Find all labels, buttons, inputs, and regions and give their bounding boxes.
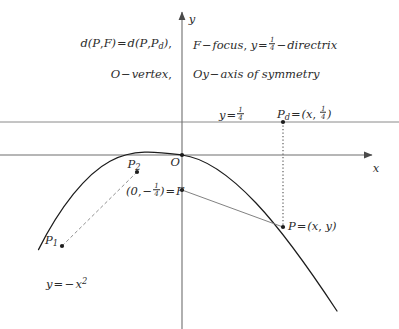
note-line1-left-text: d(P,F)=d(P,Pd),	[80, 36, 172, 50]
point-label-origin-text: O	[171, 155, 180, 169]
y-axis-label-text: y	[189, 12, 196, 26]
note-line1-right-text: F−focus, y=14−directrix	[193, 38, 337, 52]
directrix-label-text: y=14	[219, 108, 244, 122]
x-axis-label-text: x	[373, 161, 380, 175]
y-axis-label: y	[189, 14, 196, 26]
note-line2-left: O−vertex,	[111, 69, 172, 81]
note-line2-right-text: Oy−axis of symmetry	[193, 67, 319, 81]
focus-to-p-line	[182, 190, 283, 227]
point-marker-p1	[60, 244, 64, 248]
point-label-pd-text: Pd=(x, 14)	[277, 107, 331, 121]
note-line1-right: F−focus, y=14−directrix	[193, 36, 337, 52]
note-line2-left-text: O−vertex,	[111, 67, 172, 81]
point-marker-p	[281, 225, 285, 229]
x-axis-label: x	[373, 163, 380, 175]
note-line1-left: d(P,F)=d(P,Pd),	[80, 38, 172, 51]
point-label-p2: P2	[127, 159, 140, 172]
point-label-p2-text: P2	[127, 157, 140, 171]
curve-equation-label: y=−x2	[46, 278, 87, 291]
parabola-figure-canvas: d(P,F)=d(P,Pd), F−focus, y=14−directrix …	[0, 0, 399, 329]
note-line2-right: Oy−axis of symmetry	[193, 69, 319, 81]
point-label-p1-text: P1	[45, 233, 58, 247]
point-label-focus-text: (0,−14)=F	[126, 184, 184, 198]
point-label-origin: O	[171, 157, 180, 169]
point-label-p-text: P=(x, y)	[288, 219, 336, 233]
point-label-p: P=(x, y)	[288, 221, 336, 233]
point-marker-origin	[180, 153, 184, 157]
point-label-pd: Pd=(x, 14)	[277, 105, 331, 122]
point-label-focus: (0,−14)=F	[126, 182, 184, 198]
directrix-label: y=14	[219, 106, 244, 122]
point-label-p1: P1	[45, 235, 58, 248]
curve-equation-text: y=−x2	[46, 277, 87, 291]
